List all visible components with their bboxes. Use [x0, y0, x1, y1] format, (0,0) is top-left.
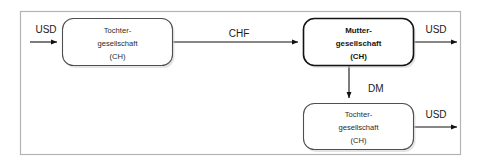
- node-label-line: gesellschaft: [338, 123, 379, 132]
- node-label-line: gesellschaft: [97, 39, 138, 48]
- flow-label-outflow-usd-mutter: USD: [425, 24, 446, 35]
- diagram-svg: Tochter- gesellschaft (CH) Mutter- gesel…: [0, 0, 479, 166]
- node-label-line: (CH): [350, 136, 366, 145]
- flow-label-inflow-usd-left: USD: [35, 24, 56, 35]
- node-tochter-ch-bottom[interactable]: Tochter- gesellschaft (CH): [304, 104, 414, 150]
- flow-label-chf-left-to-mutter: CHF: [229, 28, 250, 39]
- node-label-line: Tochter-: [345, 110, 373, 119]
- node-label-line: (CH): [109, 52, 125, 61]
- node-label-line: Tochter-: [104, 26, 132, 35]
- node-label-line: Mutter-: [345, 26, 372, 35]
- node-tochter-ch-left[interactable]: Tochter- gesellschaft (CH): [63, 19, 173, 66]
- node-label-line: (CH): [350, 52, 367, 61]
- node-mutter-ch[interactable]: Mutter- gesellschaft (CH): [304, 19, 414, 66]
- node-label-line: gesellschaft: [336, 39, 382, 48]
- diagram-canvas: Tochter- gesellschaft (CH) Mutter- gesel…: [0, 0, 479, 166]
- flow-label-outflow-usd-tochter-bottom: USD: [425, 109, 446, 120]
- flow-label-dm-mutter-to-tochter: DM: [368, 83, 384, 94]
